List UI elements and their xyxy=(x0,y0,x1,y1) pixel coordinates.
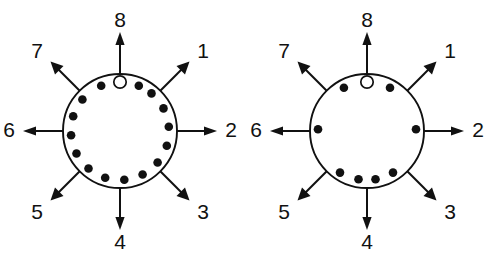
right-label-5: 5 xyxy=(278,200,290,223)
right-node-dot xyxy=(336,168,345,177)
left-ray-8-arrowhead xyxy=(115,32,124,45)
left-ray-7-line xyxy=(57,68,80,91)
left-node-dot xyxy=(78,95,87,104)
left-label-4: 4 xyxy=(114,230,126,253)
left-node-dot xyxy=(138,170,147,179)
right-node-dot xyxy=(354,175,363,184)
right-ray-3 xyxy=(407,171,436,200)
right-label-3: 3 xyxy=(444,200,456,223)
left-open-marker xyxy=(114,76,126,88)
right-label-1: 1 xyxy=(444,39,456,62)
left-label-2: 2 xyxy=(225,118,237,141)
right-label-6: 6 xyxy=(250,118,262,141)
left-node-dot xyxy=(67,131,76,140)
figure-root: 8 1 2 3 4 5 6 7 xyxy=(0,0,494,263)
left-node-dots xyxy=(67,81,173,184)
left-ray-5-line xyxy=(57,171,80,194)
right-node-dot xyxy=(412,125,421,134)
right-label-2: 2 xyxy=(472,118,484,141)
right-rays xyxy=(270,32,464,230)
left-node-dot xyxy=(101,174,110,183)
left-ray-5 xyxy=(51,171,80,200)
right-ray-4 xyxy=(362,188,371,230)
left-ray-2-arrowhead xyxy=(204,126,217,135)
left-label-8: 8 xyxy=(114,8,126,31)
right-ray-1 xyxy=(407,62,436,91)
right-node-dot xyxy=(371,175,380,184)
left-node-dot xyxy=(135,81,144,90)
right-open-marker xyxy=(361,76,373,88)
left-node-dot xyxy=(72,149,81,158)
left-ray-2 xyxy=(177,126,217,135)
left-label-5: 5 xyxy=(31,200,43,223)
right-ray-8-arrowhead xyxy=(362,32,371,45)
left-node-dot xyxy=(159,104,168,113)
right-ray-2 xyxy=(424,126,464,135)
right-ray-4-arrowhead xyxy=(362,217,371,230)
right-ray-3-line xyxy=(407,171,430,194)
left-node-dot xyxy=(153,158,162,167)
right-ray-8 xyxy=(362,32,371,74)
left-ray-4 xyxy=(115,188,124,230)
left-label-7: 7 xyxy=(31,39,43,62)
left-node-dot xyxy=(84,164,93,173)
right-ray-7 xyxy=(298,62,327,91)
right-ray-1-line xyxy=(407,68,430,91)
left-node-dot xyxy=(165,122,174,131)
right-label-7: 7 xyxy=(278,39,290,62)
left-label-6: 6 xyxy=(3,118,15,141)
right-circle-outline xyxy=(310,74,424,188)
right-ray-5-line xyxy=(304,171,327,194)
left-label-3: 3 xyxy=(197,200,209,223)
right-circle-svg: 8 1 2 3 4 5 6 7 xyxy=(247,0,494,263)
left-ray-1-line xyxy=(160,68,183,91)
left-node-dot xyxy=(147,89,156,98)
right-ray-2-arrowhead xyxy=(451,126,464,135)
left-label-1: 1 xyxy=(197,39,209,62)
right-label-8: 8 xyxy=(361,8,373,31)
right-ray-6 xyxy=(270,126,310,135)
left-node-dot xyxy=(163,141,172,150)
left-node-dot xyxy=(69,112,78,121)
right-node-dot xyxy=(314,125,323,134)
left-ray-1 xyxy=(160,62,189,91)
right-node-dot xyxy=(389,168,398,177)
left-ray-8 xyxy=(115,32,124,74)
left-ray-7 xyxy=(51,62,80,91)
right-circle-diagram: 8 1 2 3 4 5 6 7 xyxy=(247,0,494,263)
left-node-dot xyxy=(120,176,129,185)
left-ray-4-arrowhead xyxy=(115,217,124,230)
left-circle-outline xyxy=(63,74,177,188)
left-circle-diagram: 8 1 2 3 4 5 6 7 xyxy=(0,0,247,263)
right-ray-6-arrowhead xyxy=(270,126,283,135)
left-ray-3 xyxy=(160,171,189,200)
left-node-dot xyxy=(97,81,106,90)
left-ray-6-arrowhead xyxy=(23,126,36,135)
left-ray-3-line xyxy=(160,171,183,194)
right-node-dot xyxy=(340,83,349,92)
right-label-4: 4 xyxy=(361,230,373,253)
left-ray-6 xyxy=(23,126,63,135)
left-rays xyxy=(23,32,217,230)
right-node-dot xyxy=(386,83,395,92)
left-circle-svg: 8 1 2 3 4 5 6 7 xyxy=(0,0,247,263)
right-ray-7-line xyxy=(304,68,327,91)
right-node-dots xyxy=(314,83,421,183)
right-ray-5 xyxy=(298,171,327,200)
